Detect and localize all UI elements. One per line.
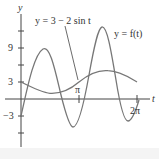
x-tick-label-pi: π [75,84,80,95]
t-axis-label: t [152,93,155,104]
y-axis-label: y [17,2,23,13]
chart: y t 9 3 −3 π 2π y = 3 − 2 sin t y = f(t) [0,0,159,159]
y-tick-label-3: 3 [8,76,13,87]
annotation-sin-label: y = 3 − 2 sin t [35,15,91,26]
x-tick-label-2pi: 2π [130,105,140,116]
y-tick-label-neg3: −3 [3,110,14,121]
annotation-f-label: y = f(t) [114,28,142,40]
footer-band [0,148,159,159]
curve-f-t [21,27,139,127]
y-tick-label-9: 9 [8,42,13,53]
annotation-pointer [65,26,78,80]
